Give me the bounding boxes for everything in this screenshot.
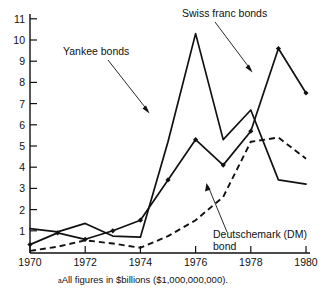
line-chart: 1234567891011 197019721974197619781980 Y… — [0, 0, 324, 293]
y-axis-ticks: 1234567891011 — [13, 13, 37, 237]
annotation-swiss-leader — [215, 22, 251, 70]
annotation-yankee-label: Yankee bonds — [63, 45, 129, 57]
annotation-swiss-label: Swiss franc bonds — [182, 7, 267, 19]
annotation-dm-label-line1: Deutschemark (DM) — [213, 228, 307, 240]
figure-bond-issuance-chart: 1234567891011 197019721974197619781980 Y… — [0, 0, 324, 293]
x-tick-label-1970: 1970 — [18, 256, 42, 268]
x-tick-label-1976: 1976 — [184, 256, 208, 268]
x-tick-label-1978: 1978 — [239, 256, 263, 268]
annotation-yankee-arrowhead — [143, 106, 150, 114]
annotation-yankee: Yankee bonds — [63, 45, 150, 114]
series-line-swiss-franc-bonds — [30, 34, 306, 238]
y-tick-label-7: 7 — [19, 98, 25, 110]
annotation-dm-label-line2: bond — [213, 240, 237, 252]
series-marker-yankee-bonds-1970 — [27, 242, 32, 247]
y-tick-label-4: 4 — [19, 161, 25, 173]
annotation-swiss-arrowhead — [246, 65, 253, 73]
y-tick-label-11: 11 — [14, 13, 25, 25]
series-marker-yankee-bonds-1973 — [110, 228, 115, 233]
x-tick-label-1972: 1972 — [74, 256, 98, 268]
y-tick-label-9: 9 — [19, 55, 25, 67]
y-tick-label-5: 5 — [19, 140, 25, 152]
footnote-text: All figures in $billions ($1,000,000,000… — [62, 274, 228, 285]
figure-footnote: aAll figures in $billions ($1,000,000,00… — [58, 274, 228, 285]
y-tick-label-2: 2 — [19, 204, 25, 216]
chart-series-group — [27, 34, 308, 251]
y-tick-label-8: 8 — [19, 76, 25, 88]
x-tick-label-1974: 1974 — [129, 256, 153, 268]
y-tick-label-1: 1 — [19, 225, 25, 237]
annotation-yankee-leader — [108, 60, 148, 111]
svg-text:aAll figures in $billions ($1,: aAll figures in $billions ($1,000,000,00… — [58, 274, 228, 285]
y-tick-label-6: 6 — [19, 119, 25, 131]
x-tick-label-1980: 1980 — [294, 256, 318, 268]
x-axis-ticks: 197019721974197619781980 — [18, 246, 318, 268]
y-tick-label-10: 10 — [13, 34, 25, 46]
y-tick-label-3: 3 — [19, 182, 25, 194]
annotation-deutschemark: Deutschemark (DM) bond — [205, 183, 307, 252]
